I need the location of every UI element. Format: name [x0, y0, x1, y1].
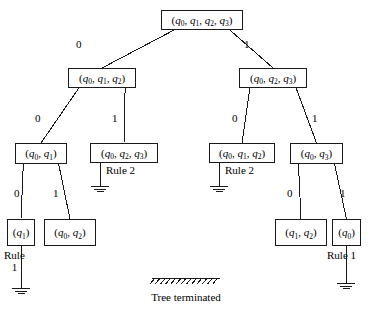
- terminated-hatch-tick-3: [166, 278, 171, 284]
- rule-label-term-l3a: Rule1: [4, 250, 25, 273]
- state-set-node-l2a: (q0, q1): [15, 143, 67, 164]
- edge-l2a-to-l3b: [59, 164, 70, 219]
- state-set-node-l3c: (q1, q2): [275, 219, 327, 246]
- rule-label-term-l2c: Rule 2: [225, 165, 254, 177]
- node-label: (q0): [338, 227, 355, 238]
- terminated-hatch-tick-6: [181, 278, 186, 284]
- node-label: (q1, q2): [285, 227, 316, 238]
- figure-canvas: (q0, q1, q2, q3)(q0, q1, q2)(q0, q2, q3)…: [0, 0, 372, 312]
- state-set-node-l3d: (q0): [332, 219, 361, 246]
- state-set-node-root: (q0, q1, q2, q3): [161, 10, 243, 30]
- edge-l2a-to-l3a: [21, 164, 23, 219]
- state-set-node-l1b: (q0, q2, q3): [239, 68, 307, 88]
- node-label: (q1): [13, 227, 30, 238]
- edge-l1a-to-l2b: [124, 88, 125, 143]
- rule-label-term-l3d: Rule 1: [327, 250, 356, 262]
- state-set-node-l2c: (q0, q1, q2): [209, 143, 275, 163]
- state-set-node-l3a: (q1): [7, 219, 35, 246]
- terminated-hatch-tick-12: [213, 278, 218, 284]
- state-set-node-l3b: (q0, q2): [44, 219, 96, 246]
- node-label: (q0, q2, q3): [250, 73, 296, 84]
- terminated-hatch-tick-11: [208, 278, 213, 284]
- terminated-hatch-tick-0: [150, 278, 155, 284]
- rule-label-term-l2b: Rule 2: [106, 165, 135, 177]
- edge-label-l2a-l3a: 0: [14, 188, 20, 199]
- edge-label-l1a-l2b: 1: [112, 113, 118, 124]
- terminated-hatch-tick-5: [176, 278, 181, 284]
- state-set-node-l1a: (q0, q1, q2): [68, 68, 136, 88]
- state-set-node-l2d: (q0, q3): [290, 143, 343, 164]
- node-label: (q0, q2): [54, 227, 85, 238]
- node-label: (q0, q1, q2): [219, 148, 265, 159]
- terminated-hatch-tick-1: [155, 278, 160, 284]
- edge-root-to-l1a: [102, 30, 174, 68]
- edge-label-l2a-l3b: 1: [53, 188, 59, 199]
- state-set-node-l2b: (q0, q2, q3): [90, 143, 158, 163]
- node-label: (q0, q1, q2, q3): [172, 15, 233, 26]
- terminated-hatch-tick-4: [171, 278, 176, 284]
- node-label: (q0, q1): [25, 148, 56, 159]
- tree-terminated-caption: Tree terminated: [151, 292, 221, 303]
- edge-label-root-l1b: 1: [244, 39, 250, 50]
- terminated-hatch-tick-2: [160, 278, 165, 284]
- node-label: (q0, q2, q3): [101, 148, 147, 159]
- edge-label-root-l1a: 0: [76, 39, 82, 50]
- edge-label-l1a-l2a: 0: [35, 113, 41, 124]
- node-label: (q0, q3): [301, 148, 332, 159]
- node-label: (q0, q1, q2): [79, 73, 125, 84]
- edge-l1b-to-l2c: [242, 88, 250, 143]
- edge-label-l2d-l3c: 0: [287, 188, 293, 199]
- edge-label-l1b-l2d: 1: [312, 113, 318, 124]
- edge-l2d-to-l3c: [298, 164, 301, 219]
- terminated-hatch-tick-8: [192, 278, 197, 284]
- terminated-hatch-tick-7: [187, 278, 192, 284]
- terminated-hatch-tick-10: [202, 278, 207, 284]
- edge-l1a-to-l2a: [41, 88, 79, 143]
- edge-root-to-l1b: [230, 30, 273, 68]
- terminated-hatch-tick-9: [197, 278, 202, 284]
- edge-label-l1b-l2c: 0: [232, 113, 238, 124]
- edge-label-l2d-l3d: 1: [340, 188, 346, 199]
